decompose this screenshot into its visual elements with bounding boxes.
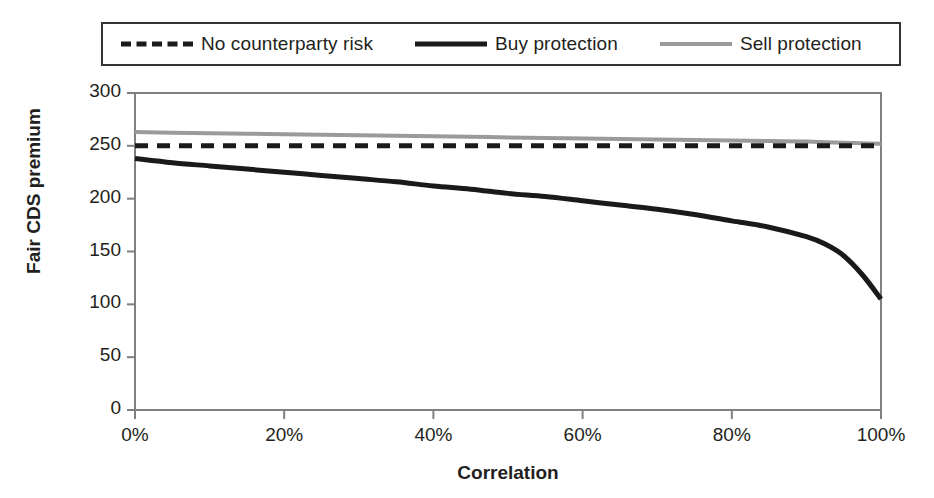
y-tick-label: 200 [55, 186, 121, 208]
x-axis-title: Correlation [135, 462, 881, 484]
series-sell-protection [135, 132, 881, 144]
y-tick-label: 250 [55, 133, 121, 155]
x-tick-label: 60% [538, 424, 628, 446]
y-tick-label: 100 [55, 291, 121, 313]
chart-figure: No counterparty risk Buy protection Sell… [0, 0, 934, 498]
y-axis-title: Fair CDS premium [23, 61, 45, 321]
y-tick-label: 300 [55, 80, 121, 102]
series-layer [135, 132, 881, 299]
x-tick-label: 100% [836, 424, 926, 446]
x-tick-label: 80% [687, 424, 777, 446]
series-buy-protection [135, 159, 881, 300]
y-tick-label: 150 [55, 239, 121, 261]
y-tick-label: 0 [55, 397, 121, 419]
x-tick-label: 40% [388, 424, 478, 446]
x-tick-label: 0% [90, 424, 180, 446]
x-tick-label: 20% [239, 424, 329, 446]
y-tick-label: 50 [55, 344, 121, 366]
